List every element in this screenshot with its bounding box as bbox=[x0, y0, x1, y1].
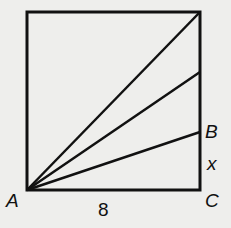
geometry-diagram: A B C x 8 bbox=[0, 0, 231, 228]
label-x: x bbox=[206, 153, 218, 174]
label-A: A bbox=[5, 190, 19, 211]
ray-diagonal bbox=[27, 12, 200, 190]
label-B: B bbox=[205, 121, 218, 142]
label-side-8: 8 bbox=[98, 199, 109, 220]
ray-AB bbox=[27, 132, 200, 190]
ray-middle bbox=[27, 72, 200, 190]
label-C: C bbox=[205, 190, 219, 211]
